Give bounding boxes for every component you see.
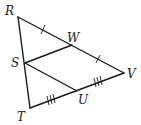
vertex-label-w: W — [67, 31, 81, 45]
triangle-diagram: R S T W V U — [0, 0, 141, 125]
vertex-label-t: T — [17, 110, 26, 124]
triple-tick-mark-tu — [47, 94, 55, 105]
vertex-label-r: R — [4, 4, 14, 18]
vertex-label-v: V — [127, 67, 137, 81]
triple-tick-mark-uv — [94, 76, 102, 87]
vertex-label-s: S — [11, 56, 19, 70]
segment-su — [25, 63, 77, 91]
segment-sw — [25, 45, 72, 63]
vertex-label-u: U — [78, 93, 89, 107]
